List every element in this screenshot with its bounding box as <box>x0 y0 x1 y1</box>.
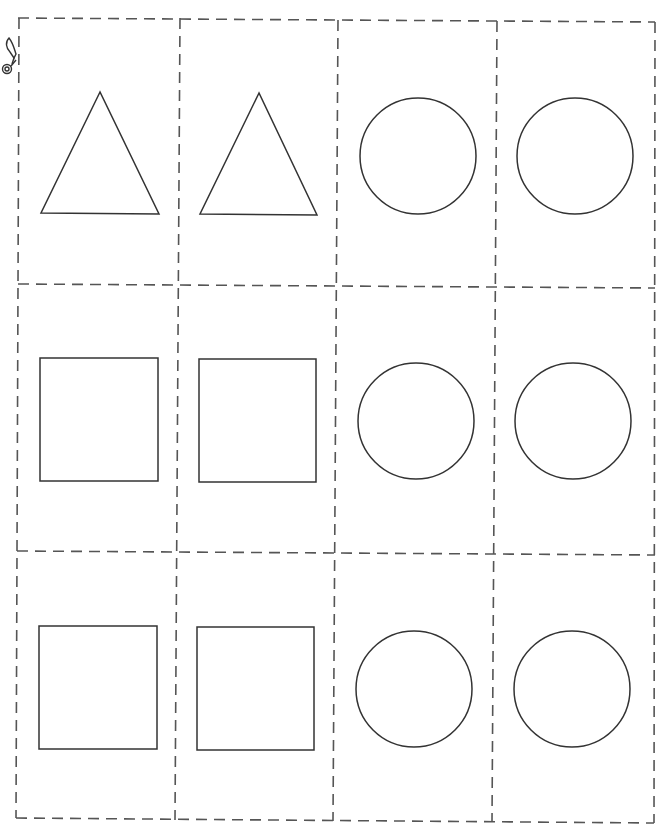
circle-shape <box>356 631 472 747</box>
square-shape <box>197 627 314 750</box>
circle-shape <box>358 363 474 479</box>
square-shape <box>40 358 158 481</box>
triangle-shape <box>200 93 317 215</box>
circle-shape <box>360 98 476 214</box>
circle-shape <box>517 98 633 214</box>
square-shape <box>199 359 316 482</box>
triangle-shape <box>41 92 159 214</box>
circle-shape <box>515 363 631 479</box>
scissors-icon <box>0 34 22 78</box>
square-shape <box>39 626 157 749</box>
circle-shape <box>514 631 630 747</box>
worksheet-page <box>0 0 658 829</box>
triangle-card-1 <box>0 0 658 829</box>
